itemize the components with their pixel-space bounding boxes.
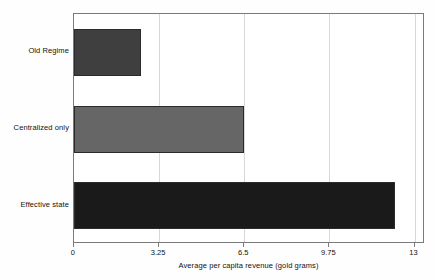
bar-chart-figure: Old Regime Centralized only Effective st… bbox=[0, 0, 434, 280]
x-axis-tick-label-1: 3.25 bbox=[151, 248, 166, 257]
x-axis-tick-label-3: 9.75 bbox=[321, 248, 336, 257]
bar-effective-state bbox=[74, 182, 395, 229]
x-axis-tick-label-4: 13 bbox=[409, 248, 418, 257]
x-axis-tick-mark-4 bbox=[414, 243, 415, 247]
x-axis-tick-mark-0 bbox=[73, 243, 74, 247]
y-axis-tick-label-old-regime: Old Regime bbox=[1, 46, 69, 55]
bar-centralized-only bbox=[74, 106, 244, 153]
x-axis-tick-mark-1 bbox=[158, 243, 159, 247]
plot-area bbox=[73, 13, 424, 243]
x-axis-title: Average per capita revenue (gold grams) bbox=[73, 261, 424, 271]
x-axis-tick-label-2: 6.5 bbox=[238, 248, 249, 257]
x-axis-tick-mark-2 bbox=[243, 243, 244, 247]
x-axis-tick-mark-3 bbox=[328, 243, 329, 247]
x-axis-tick-label-0: 0 bbox=[71, 248, 75, 257]
y-axis-tick-label-centralized-only: Centralized only bbox=[1, 123, 69, 132]
gridline-4 bbox=[415, 14, 416, 242]
y-axis-tick-labels: Old Regime Centralized only Effective st… bbox=[0, 13, 69, 243]
bar-old-regime bbox=[74, 29, 141, 76]
y-axis-tick-label-effective-state: Effective state bbox=[1, 200, 69, 209]
x-axis-tick-labels: 0 3.25 6.5 9.75 13 bbox=[73, 243, 424, 263]
